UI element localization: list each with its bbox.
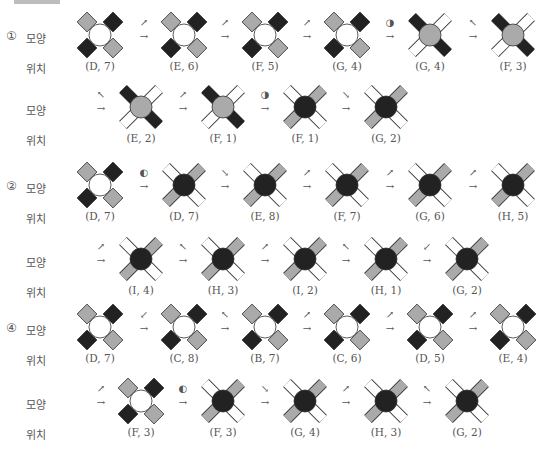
shape-figure [200,378,246,424]
move-arrow-icon: ↗→ [133,16,155,46]
shape-figure [118,84,164,130]
position-label: (G, 4) [275,426,335,438]
position-label: (D, 7) [70,60,130,72]
shape-figure [161,304,207,350]
position-label: (G, 6) [400,210,460,222]
shape-figure [118,378,164,424]
shape-figure [77,304,123,350]
move-arrow-icon: ↗→ [296,308,318,338]
shape-figure [444,378,490,424]
move-arrow-icon: ↗→ [296,166,318,196]
shape-figure [118,236,164,282]
move-arrow-icon: ↗→ [335,382,357,412]
shape-figure [324,304,370,350]
position-label: (I, 2) [275,284,335,296]
shape-figure [282,236,328,282]
shape-row-label: 모양 [26,30,46,46]
position-label: (D, 5) [400,352,460,364]
option-number: ② [6,179,17,193]
move-arrow-icon: ↙→ [133,308,155,338]
position-label: (D, 7) [70,352,130,364]
move-arrow-icon: ↖→ [172,240,194,270]
shape-figure [363,84,409,130]
position-label: (E, 4) [483,352,540,364]
shape-figure [407,162,453,208]
position-label: (F, 3) [193,426,253,438]
shape-figure [242,12,288,58]
move-arrow-icon: ↘→ [335,88,357,118]
header-label-box [14,0,60,4]
shape-figure [242,162,288,208]
position-label: (F, 1) [193,132,253,144]
position-label: (F, 3) [111,426,171,438]
shape-figure [324,162,370,208]
move-arrow-icon: ↗→ [90,382,112,412]
position-label: (H, 1) [356,284,416,296]
move-arrow-icon: ↖→ [462,16,484,46]
move-arrow-icon: ↙→ [416,240,438,270]
position-label: (E, 2) [111,132,171,144]
shape-figure [444,236,490,282]
move-arrow-icon: ↗→ [172,88,194,118]
position-label: (G, 4) [400,60,460,72]
shape-figure [161,162,207,208]
move-arrow-icon: ↗→ [462,308,484,338]
shape-figure [77,162,123,208]
position-label: (G, 2) [437,426,497,438]
move-arrow-icon: ↘→ [254,382,276,412]
move-arrow-icon: ↖→ [214,308,236,338]
shape-figure [490,304,536,350]
move-arrow-icon: ↗→ [296,16,318,46]
position-label: (F, 7) [317,210,377,222]
shape-figure [200,84,246,130]
position-row-label: 위치 [26,284,46,300]
position-label: (H, 5) [483,210,540,222]
shape-figure [77,12,123,58]
shape-row-label: 모양 [26,254,46,270]
position-label: (F, 1) [275,132,335,144]
move-arrow-icon: ↗→ [379,166,401,196]
move-arrow-icon: ↗→ [462,166,484,196]
position-label: (E, 8) [235,210,295,222]
shape-figure [490,12,536,58]
move-arrow-icon: ↗→ [214,16,236,46]
position-row-label: 위치 [26,132,46,148]
move-arrow-icon: ↗→ [254,240,276,270]
shape-figure [407,12,453,58]
position-label: (H, 3) [356,426,416,438]
position-label: (B, 7) [235,352,295,364]
shape-row-label: 모양 [26,102,46,118]
option-number: ① [6,29,17,43]
shape-figure [363,236,409,282]
rotate-icon: ◐→ [133,166,155,196]
position-row-label: 위치 [26,210,46,226]
move-arrow-icon: ↖→ [90,88,112,118]
shape-row-label: 모양 [26,180,46,196]
move-arrow-icon: ↖→ [416,382,438,412]
position-label: (C, 6) [317,352,377,364]
move-arrow-icon: ↗→ [90,240,112,270]
position-label: (C, 8) [154,352,214,364]
shape-figure [490,162,536,208]
position-label: (E, 6) [154,60,214,72]
shape-row-label: 모양 [26,396,46,412]
shape-figure [363,378,409,424]
shape-figure [200,236,246,282]
position-label: (H, 3) [193,284,253,296]
move-arrow-icon: ↖→ [335,240,357,270]
move-arrow-icon: ↗→ [379,308,401,338]
shape-figure [282,378,328,424]
rotate-icon: ◑→ [379,16,401,46]
position-label: (I, 4) [111,284,171,296]
position-row-label: 위치 [26,352,46,368]
position-label: (D, 7) [154,210,214,222]
move-arrow-icon: ↘→ [214,166,236,196]
shape-row-label: 모양 [26,322,46,338]
rotate-icon: ◐→ [172,382,194,412]
shape-figure [161,12,207,58]
position-row-label: 위치 [26,426,46,442]
shape-figure [282,84,328,130]
position-label: (D, 7) [70,210,130,222]
shape-figure [242,304,288,350]
option-number: ④ [6,321,17,335]
